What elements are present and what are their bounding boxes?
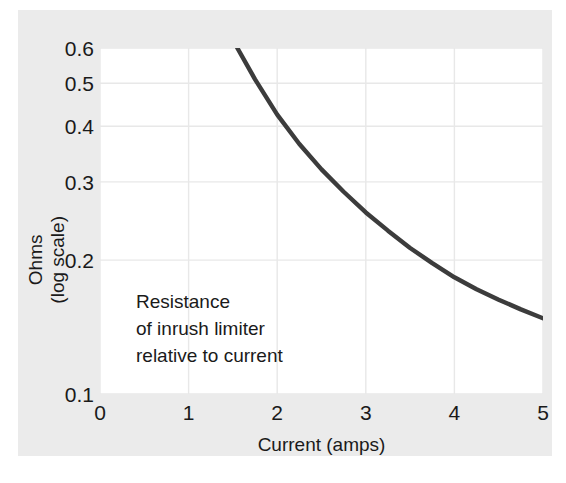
y-tick-label: 0.4 [32, 116, 94, 137]
annotation-line-2: of inrush limiter [136, 316, 283, 343]
y-tick-label: 0.5 [32, 73, 94, 94]
y-tick-label: 0.6 [32, 38, 94, 59]
x-tick-label: 2 [257, 402, 297, 423]
chart-panel: 0.10.20.30.40.50.6 012345 Current (amps)… [18, 10, 552, 456]
curve-path [237, 48, 543, 318]
annotation-line-3: relative to current [136, 343, 283, 370]
x-tick-label: 1 [169, 402, 209, 423]
y-tick-label: 0.3 [32, 171, 94, 192]
x-axis-label: Current (amps) [100, 434, 543, 456]
annotation-line-1: Resistance [136, 289, 283, 316]
x-tick-label: 3 [346, 402, 386, 423]
chart-figure: 0.10.20.30.40.50.6 012345 Current (amps)… [0, 0, 566, 483]
x-tick-label: 5 [523, 402, 563, 423]
x-axis-ticks: 012345 [100, 402, 543, 432]
y-axis-label-line-1: Ohms [25, 195, 47, 325]
y-axis-label: Ohms (log scale) [25, 195, 69, 325]
x-tick-label: 0 [80, 402, 120, 423]
x-tick-label: 4 [434, 402, 474, 423]
y-axis-label-line-2: (log scale) [47, 195, 69, 325]
chart-annotation: Resistance of inrush limiter relative to… [136, 289, 283, 370]
